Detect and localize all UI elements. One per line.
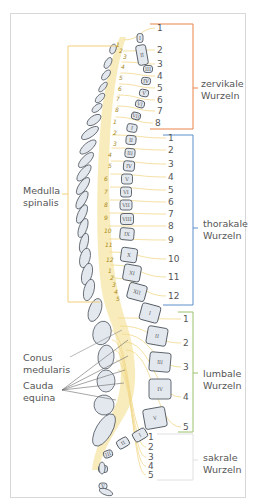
cord-segment-thoracic-1: 1 xyxy=(113,118,117,125)
vertebra-thoracic-2: II xyxy=(126,135,137,145)
root-number-sacral-5: 5 xyxy=(148,470,154,480)
label-medulla-spinalis: Medullaspinalis xyxy=(23,185,60,208)
root-number-cervical-3: 3 xyxy=(157,59,163,69)
svg-text:II: II xyxy=(129,137,133,143)
cord-segment-thoracic-2: 2 xyxy=(113,129,117,136)
cord-segment-lumbar-3: 3 xyxy=(112,281,116,288)
label-lumbar-roots: lumbaleWurzeln xyxy=(203,368,241,391)
root-number-sacral-1: 1 xyxy=(148,432,154,442)
label-cervical-roots: zervikaleWurzeln xyxy=(201,78,244,101)
root-thoracic-9 xyxy=(109,239,166,240)
pointer-cauda xyxy=(62,383,124,390)
svg-text:III: III xyxy=(145,66,151,72)
root-number-lumbar-1: 1 xyxy=(183,314,189,324)
vertebra-sacral-2: II xyxy=(116,436,131,450)
label-cauda-equina: Caudaequina xyxy=(23,380,55,403)
root-number-thoracic-2: 2 xyxy=(168,145,174,155)
svg-text:V: V xyxy=(124,176,129,182)
cord-segment-cervical-7: 7 xyxy=(116,95,120,102)
cord-segment-thoracic-10: 10 xyxy=(104,227,112,234)
root-cervical-6 xyxy=(118,95,155,100)
root-number-thoracic-8: 8 xyxy=(168,221,174,231)
root-number-thoracic-9: 9 xyxy=(168,235,174,245)
root-thoracic-1 xyxy=(112,135,166,138)
root-number-thoracic-4: 4 xyxy=(168,172,174,182)
svg-text:VII: VII xyxy=(121,202,130,208)
cord-segment-cervical-4: 4 xyxy=(121,63,125,70)
spinous-process xyxy=(92,393,115,416)
cord-segment-cervical-6: 6 xyxy=(118,85,122,92)
svg-text:III: III xyxy=(127,150,133,156)
root-number-thoracic-7: 7 xyxy=(168,209,174,219)
bracket-lumbar xyxy=(178,312,193,432)
label-sacral-roots: sakraleWurzeln xyxy=(203,452,241,475)
cord-segment-thoracic-12: 12 xyxy=(106,256,114,263)
root-number-cervical-2: 2 xyxy=(157,45,163,55)
cord-segment-thoracic-4: 4 xyxy=(108,151,112,158)
root-number-thoracic-11: 11 xyxy=(168,272,179,282)
root-number-thoracic-5: 5 xyxy=(168,185,174,195)
bracket-sacral xyxy=(157,434,193,480)
cord-segment-thoracic-6: 6 xyxy=(104,175,108,182)
cord-segment-thoracic-3: 3 xyxy=(113,140,117,147)
cord-segment-thoracic-8: 8 xyxy=(104,201,108,208)
vertebra-cervical-6: VI xyxy=(135,99,146,108)
root-thoracic-5 xyxy=(110,187,166,190)
root-number-cervical-1: 1 xyxy=(157,23,163,33)
root-number-thoracic-10: 10 xyxy=(168,254,180,264)
cord-segment-thoracic-5: 5 xyxy=(108,162,112,169)
svg-text:IV: IV xyxy=(143,78,149,84)
vertebra-thoracic-3: III xyxy=(125,148,136,158)
vertebra-thoracic-5: V xyxy=(122,174,133,184)
vertebra-cervical-5: V xyxy=(139,89,149,97)
root-number-cervical-7: 7 xyxy=(157,106,163,116)
vertebra-cervical-4: IV xyxy=(141,77,151,85)
vertebra-lumbar-5: V xyxy=(142,406,167,430)
pointer-cauda xyxy=(62,340,128,390)
vertebra-cervical-3: III xyxy=(144,66,153,73)
cord-segment-lumbar-2: 2 xyxy=(110,274,114,281)
root-number-cervical-8: 8 xyxy=(155,118,161,128)
cord-segment-thoracic-9: 9 xyxy=(104,214,108,221)
root-number-cervical-4: 4 xyxy=(157,71,163,81)
svg-text:XI: XI xyxy=(129,269,136,276)
root-thoracic-7 xyxy=(109,213,166,214)
root-number-sacral-2: 2 xyxy=(148,442,154,452)
label-conus-medullaris: Conusmedularis xyxy=(23,352,70,375)
cord-segment-lumbar-1: 1 xyxy=(108,267,112,274)
spinous-process xyxy=(90,102,103,114)
spinous-process xyxy=(85,112,103,128)
spinous-process xyxy=(97,370,115,392)
root-number-cervical-6: 6 xyxy=(157,95,163,105)
root-number-thoracic-1: 1 xyxy=(168,133,174,143)
vertebra-lumbar-3: III xyxy=(149,352,172,373)
vertebra-lumbar-4: IV xyxy=(149,379,171,399)
svg-text:IV: IV xyxy=(157,386,163,392)
pointer-cauda xyxy=(62,356,128,390)
vertebra-thoracic-12: XII xyxy=(126,282,148,302)
cord-segment-cervical-8: 8 xyxy=(115,106,119,113)
root-thoracic-3 xyxy=(111,161,166,164)
vertebra-thoracic-1: I xyxy=(126,123,137,133)
root-number-lumbar-3: 3 xyxy=(183,362,189,372)
root-number-lumbar-2: 2 xyxy=(183,338,189,348)
svg-text:VIII: VIII xyxy=(121,216,132,222)
vertebra-lumbar-2: II xyxy=(146,325,169,346)
root-thoracic-4 xyxy=(111,174,167,177)
vertebra-thoracic-6: VI xyxy=(121,187,132,197)
cord-segment-cervical-5: 5 xyxy=(119,74,123,81)
cord-segment-thoracic-7: 7 xyxy=(104,188,108,195)
root-number-thoracic-12: 12 xyxy=(168,291,179,301)
spine-diagram: IIIIIIIVVVIVIIIIIIIIIVVVIVIIVIIIIXXXIXII… xyxy=(0,0,257,501)
vertebra-lumbar-1: I xyxy=(139,302,162,323)
root-number-thoracic-6: 6 xyxy=(168,197,174,207)
vertebra-thoracic-10: X xyxy=(120,247,138,263)
vertebra-cervical-1: I xyxy=(137,34,143,43)
root-number-thoracic-3: 3 xyxy=(168,159,174,169)
root-number-lumbar-4: 4 xyxy=(183,392,189,402)
root-number-lumbar-5: 5 xyxy=(183,422,189,432)
spinous-process xyxy=(90,319,114,347)
root-thoracic-2 xyxy=(112,148,167,150)
vertebra-thoracic-9: IX xyxy=(120,227,135,240)
root-number-cervical-5: 5 xyxy=(157,83,163,93)
